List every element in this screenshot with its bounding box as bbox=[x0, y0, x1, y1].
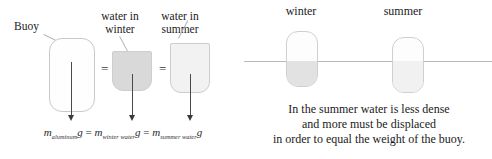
winter-leader-line bbox=[119, 36, 128, 52]
winter-scene-label: winter bbox=[278, 5, 324, 18]
summer-scene-label: summer bbox=[377, 5, 429, 18]
caption-line-3: in order to equal the weight of the buoy… bbox=[246, 132, 492, 147]
equation-term1-symbol: m bbox=[44, 126, 52, 138]
equation-term2-g: g bbox=[135, 126, 141, 138]
winter-submerged-region bbox=[287, 61, 317, 86]
water-in-winter-label: water in winter bbox=[92, 10, 148, 35]
buoy-weight-arrow-line bbox=[71, 62, 72, 117]
summer-submerged-region bbox=[393, 61, 423, 92]
equation-term3-g: g bbox=[197, 126, 203, 138]
caption-line-2: and more must be displaced bbox=[246, 117, 492, 132]
figure-canvas: Buoy = water in winter = water in summer… bbox=[0, 0, 492, 159]
equation-term2-subscript: winter water bbox=[102, 133, 135, 140]
equation-term3-subscript: summer water bbox=[160, 133, 196, 140]
winter-floating-buoy bbox=[286, 31, 318, 87]
winter-weight-arrow-head bbox=[129, 115, 135, 121]
summer-weight-arrow-head bbox=[187, 115, 193, 121]
water-in-summer-label: water in summer bbox=[148, 10, 212, 35]
summer-floating-buoy bbox=[392, 37, 424, 93]
buoy-shape bbox=[49, 38, 95, 112]
equation-equals-2: = bbox=[143, 126, 149, 138]
summer-waterline bbox=[372, 61, 492, 62]
summer-density-caption: In the summer water is less dense and mo… bbox=[246, 102, 492, 147]
equation-term1-subscript: aluminum bbox=[52, 133, 78, 140]
winter-weight-arrow-line bbox=[132, 74, 133, 117]
equation-term1-g: g bbox=[77, 126, 83, 138]
equation-equals-1: = bbox=[86, 126, 92, 138]
equals-sign-1: = bbox=[101, 61, 108, 77]
caption-line-1: In the summer water is less dense bbox=[246, 102, 492, 117]
mass-equality-equation: maluminumg = mwinter waterg = msummer wa… bbox=[0, 126, 246, 140]
water-in-winter-label-line2: winter bbox=[105, 23, 134, 35]
buoy-weight-arrow-head bbox=[68, 115, 74, 121]
summer-weight-arrow-line bbox=[190, 74, 191, 117]
equals-sign-2: = bbox=[159, 61, 166, 77]
water-in-winter-label-line1: water in bbox=[101, 10, 138, 22]
water-in-summer-label-line1: water in bbox=[161, 10, 198, 22]
buoy-label: Buoy bbox=[14, 20, 39, 33]
